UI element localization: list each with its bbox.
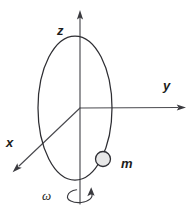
axis-label-x: x xyxy=(6,136,13,149)
axis-x xyxy=(13,108,80,172)
axis-y xyxy=(80,104,186,110)
axis-label-y: y xyxy=(163,79,170,92)
rotation-label-omega: ω xyxy=(42,189,51,202)
diagram-canvas xyxy=(0,0,191,221)
mass-bead xyxy=(96,152,111,167)
mass-label-m: m xyxy=(121,157,133,170)
rotation-indicator xyxy=(67,187,94,202)
axis-x-line xyxy=(19,108,80,166)
axis-label-z: z xyxy=(57,24,64,37)
rotation-arrowhead-icon xyxy=(87,187,94,196)
physics-diagram-figure: z y x m ω xyxy=(0,0,191,221)
axis-y-line xyxy=(80,108,178,109)
axis-z xyxy=(77,10,83,204)
